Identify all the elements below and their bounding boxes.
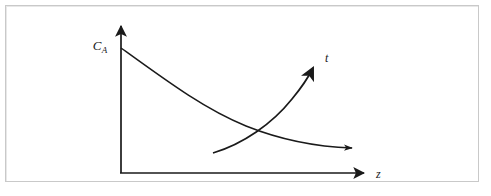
y-axis-label-subscript: A [101,45,108,55]
concentration-decay-curve [121,48,352,148]
figure-container: CA z t [0,0,491,196]
schematic-plot: CA z t [0,0,491,196]
time-curve-label: t [325,51,329,65]
x-axis-label: z [375,167,381,181]
y-axis-label: CA [93,38,108,55]
y-axis-label-symbol: C [93,38,102,53]
time-increase-curve [213,68,313,153]
